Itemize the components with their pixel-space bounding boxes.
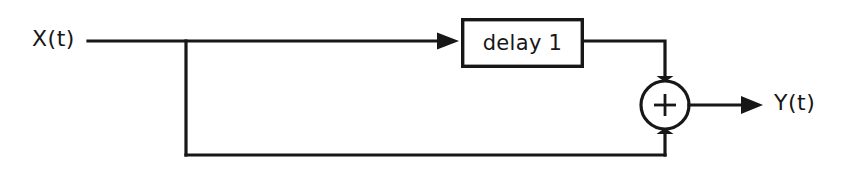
output-arrow-icon bbox=[741, 96, 763, 114]
output-signal-label: Y(t) bbox=[774, 92, 815, 114]
delay-to-sum-wire bbox=[584, 41, 665, 76]
input-signal-label: X(t) bbox=[32, 28, 75, 50]
delay-block-rect[interactable] bbox=[463, 20, 583, 67]
diagram-svg bbox=[0, 0, 868, 175]
block-diagram-canvas: X(t) delay 1 Y(t) bbox=[0, 0, 868, 175]
delay-input-arrow-icon bbox=[437, 33, 459, 50]
